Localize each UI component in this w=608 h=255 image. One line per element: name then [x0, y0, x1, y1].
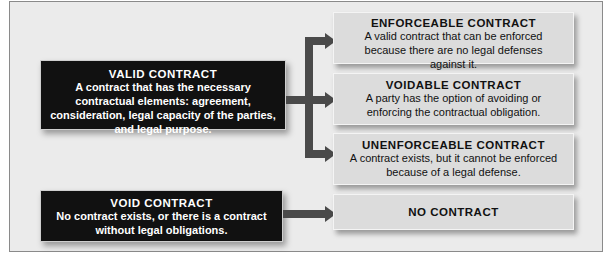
- valid-contract-title: VALID CONTRACT: [41, 68, 285, 80]
- void-contract-description: No contract exists, or there is a contra…: [41, 209, 282, 237]
- enforceable-contract-description: A valid contract that can be enforced be…: [334, 29, 573, 71]
- no-contract-title: NO CONTRACT: [334, 206, 573, 218]
- connector-to-voidable: [305, 96, 326, 104]
- voidable-contract-description: A party has the option of avoiding or en…: [334, 91, 573, 119]
- unenforceable-contract-title: UNENFORCEABLE CONTRACT: [334, 139, 573, 151]
- unenforceable-contract-box: UNENFORCEABLE CONTRACT A contract exists…: [333, 133, 574, 185]
- no-contract-box: NO CONTRACT: [333, 194, 574, 230]
- voidable-contract-box: VOIDABLE CONTRACT A party has the option…: [333, 73, 574, 125]
- connector-to-unenforceable: [305, 150, 326, 158]
- enforceable-contract-box: ENFORCEABLE CONTRACT A valid contract th…: [333, 12, 574, 64]
- connector-to-no-contract: [283, 210, 327, 218]
- enforceable-contract-title: ENFORCEABLE CONTRACT: [334, 17, 573, 29]
- unenforceable-contract-description: A contract exists, but it cannot be enfo…: [334, 151, 573, 179]
- voidable-contract-title: VOIDABLE CONTRACT: [334, 79, 573, 91]
- void-contract-box: VOID CONTRACT No contract exists, or the…: [40, 190, 283, 242]
- connector-to-enforceable: [305, 37, 326, 45]
- valid-contract-description: A contract that has the necessary contra…: [41, 80, 285, 136]
- void-contract-title: VOID CONTRACT: [41, 197, 282, 209]
- valid-contract-box: VALID CONTRACT A contract that has the n…: [40, 60, 286, 130]
